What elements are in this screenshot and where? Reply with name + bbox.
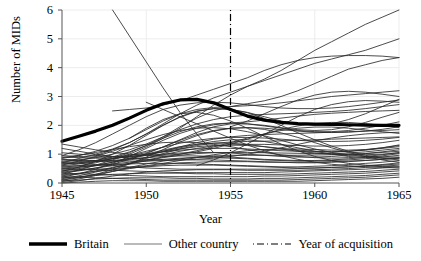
y-tick-label: 4 [31, 62, 53, 74]
x-tick-label: 1945 [32, 189, 92, 202]
legend-item-britain: Britain [28, 237, 109, 252]
y-tick-label: 3 [31, 91, 53, 103]
y-tick-label: 2 [31, 119, 53, 131]
legend-label-britain: Britain [74, 237, 109, 252]
legend-label-year-of-acquisition: Year of acquisition [298, 237, 393, 252]
chart-legend: Britain Other country Year of acquisitio… [0, 234, 421, 254]
x-tick-label: 1950 [116, 189, 176, 202]
x-tick-label: 1965 [369, 189, 421, 202]
chart-figure: Number of MIDs 0123456 19451950195519601… [0, 0, 421, 261]
legend-swatch-other-country [123, 239, 163, 249]
y-tick-label: 1 [31, 148, 53, 160]
x-axis-label: Year [0, 212, 421, 227]
legend-item-year-of-acquisition: Year of acquisition [252, 237, 393, 252]
y-tick-label: 5 [31, 33, 53, 45]
x-tick-label: 1955 [201, 189, 261, 202]
legend-label-other-country: Other country [169, 237, 239, 252]
y-tick-label: 6 [31, 4, 53, 16]
legend-swatch-britain [28, 239, 68, 249]
x-tick-label: 1960 [285, 189, 345, 202]
legend-swatch-year-of-acquisition [252, 239, 292, 249]
legend-item-other-country: Other country [123, 237, 239, 252]
